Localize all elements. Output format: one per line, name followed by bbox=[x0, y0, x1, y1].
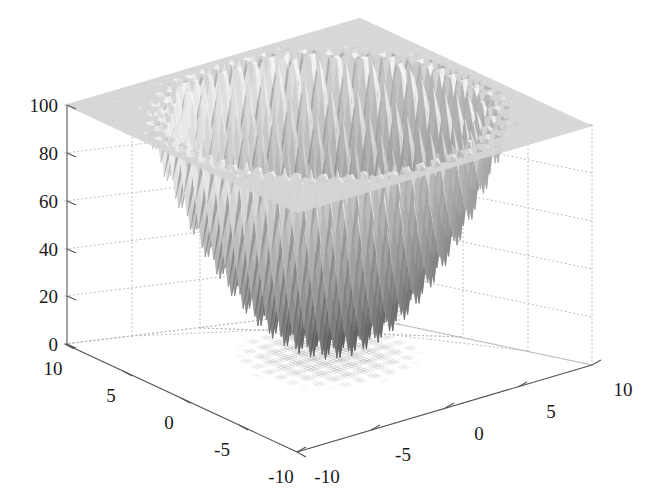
y-axis-tick-labels: 10 5 0 -5 -10 bbox=[44, 358, 294, 487]
z-axis-tick-labels: 100 80 60 40 20 0 bbox=[30, 95, 59, 355]
x-tick-label: -5 bbox=[395, 444, 411, 465]
z-axis-ticks bbox=[67, 105, 76, 348]
x-tick-label: -10 bbox=[314, 466, 339, 487]
surface-mesh bbox=[65, 18, 592, 360]
y-tick-label: -10 bbox=[268, 466, 293, 487]
y-tick-label: -5 bbox=[214, 439, 230, 460]
plot-canvas: 100 80 60 40 20 0 10 5 0 -5 -10 -10 -5 0… bbox=[0, 0, 650, 501]
z-tick-label: 20 bbox=[39, 286, 58, 307]
x-tick-label: 0 bbox=[474, 423, 484, 444]
z-tick-label: 0 bbox=[49, 334, 59, 355]
y-tick-label: 0 bbox=[164, 412, 174, 433]
z-tick-label: 80 bbox=[39, 143, 58, 164]
z-tick-label: 60 bbox=[39, 191, 58, 212]
y-tick-label: 5 bbox=[106, 385, 116, 406]
surface-plot-figure: 100 80 60 40 20 0 10 5 0 -5 -10 -10 -5 0… bbox=[0, 0, 650, 501]
z-tick-label: 100 bbox=[30, 95, 59, 116]
y-tick-label: 10 bbox=[44, 358, 63, 379]
x-tick-label: 10 bbox=[614, 379, 633, 400]
x-tick-label: 5 bbox=[546, 401, 556, 422]
z-tick-label: 40 bbox=[39, 239, 58, 260]
